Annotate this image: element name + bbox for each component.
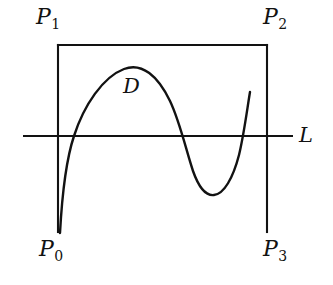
label-p0: P0 [39,238,63,260]
label-p1-base: P [36,4,51,29]
label-p2: P2 [263,6,287,28]
cubic-bezier-curve-D [60,67,250,233]
label-p3: P3 [263,238,287,260]
label-p2-subscript: 2 [278,16,287,32]
control-polygon [58,45,267,232]
label-p3-subscript: 3 [278,248,287,264]
label-p1: P1 [36,6,60,28]
label-p0-subscript: 0 [54,248,63,264]
label-p0-base: P [39,236,54,261]
label-p3-base: P [263,236,278,261]
label-p2-base: P [263,4,278,29]
label-line-l: L [299,125,313,146]
figure-root: P1 P2 P0 P3 D L [0,0,333,285]
label-p1-subscript: 1 [51,16,60,32]
label-curve-d: D [123,76,140,97]
